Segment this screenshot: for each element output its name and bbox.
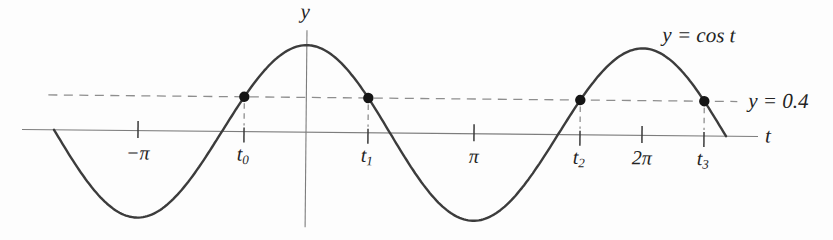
curve-equation-label: y = cos t [660,23,736,48]
threshold-line [48,95,737,102]
x-axis-label: t [765,124,772,148]
threshold-line-label: y = 0.4 [746,88,809,113]
y-axis [305,30,307,227]
tick-label: t1 [361,144,373,169]
intersection-dot [363,93,373,103]
intersection-dot [575,95,585,105]
tick-label: t3 [697,147,710,172]
intersection-dot [699,96,709,106]
cosine-curve [53,43,727,223]
tick-label: t2 [573,146,586,171]
tick-label: 2π [632,146,653,168]
intersection-dot [239,92,249,102]
tick-label: −π [126,141,151,163]
figure-canvas: −ππ2πt0t1t2t3 y t y = cos t y = 0.4 [0,0,833,240]
cosine-figure: −ππ2πt0t1t2t3 y t y = cos t y = 0.4 [0,0,833,240]
y-axis-label: y [298,0,310,23]
tick-label: t0 [237,143,250,168]
scan-tilt-group: −ππ2πt0t1t2t3 y t y = cos t y = 0.4 [21,0,810,232]
tick-label: π [469,145,480,167]
